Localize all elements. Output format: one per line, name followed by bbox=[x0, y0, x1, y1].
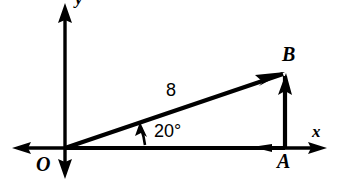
point-b-label: B bbox=[282, 44, 295, 64]
y-axis-label: y bbox=[75, 0, 83, 7]
y-axis-top-arrowhead bbox=[58, 3, 72, 23]
x-axis-label: x bbox=[312, 123, 321, 140]
magnitude-label: 8 bbox=[166, 81, 176, 99]
vector-diagram-figure: O A B x y 8 20° bbox=[0, 0, 350, 187]
origin-label: O bbox=[36, 154, 50, 174]
angle-label: 20° bbox=[154, 122, 181, 140]
point-a-label: A bbox=[277, 151, 290, 171]
y-axis-bottom-arrowhead bbox=[58, 159, 72, 179]
